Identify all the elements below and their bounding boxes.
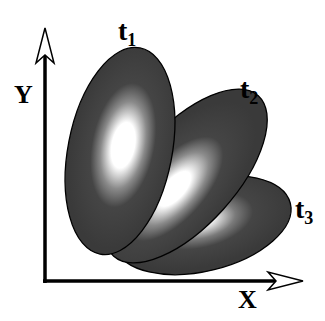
- t3-label: t3: [295, 193, 313, 228]
- x-axis-label: X: [238, 285, 257, 314]
- ellipses-diagram: Y X t1 t2 t3: [0, 0, 325, 321]
- diagram-canvas: Y X t1 t2 t3: [0, 0, 325, 321]
- t1-label-subscript: 1: [127, 30, 136, 50]
- t2-label: t2: [240, 73, 258, 108]
- y-axis-label: Y: [14, 80, 33, 109]
- t2-label-subscript: 2: [249, 88, 258, 108]
- t3-label-subscript: 3: [304, 208, 313, 228]
- y-axis: [36, 28, 54, 283]
- t1-label: t1: [118, 15, 136, 50]
